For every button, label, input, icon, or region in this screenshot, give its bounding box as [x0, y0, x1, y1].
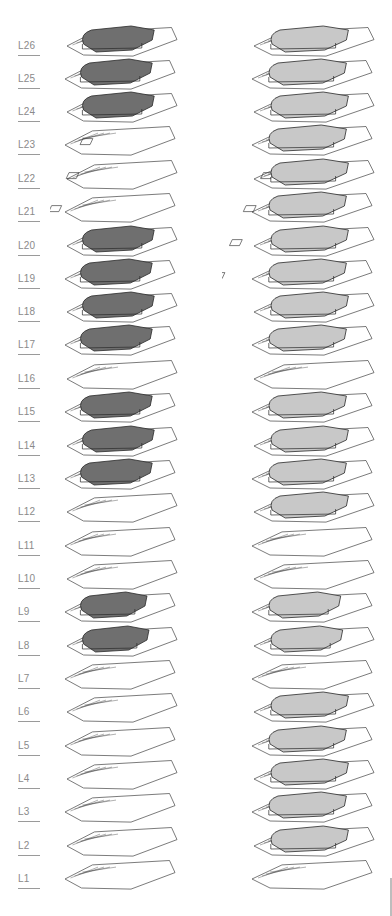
label-underline	[18, 688, 40, 689]
floor-plate	[50, 828, 177, 857]
floor-plate	[222, 759, 374, 789]
label-underline	[18, 121, 40, 122]
label-underline	[18, 588, 40, 589]
floor-stack-right	[222, 0, 392, 916]
floor-plate	[50, 494, 177, 523]
floor-plate	[222, 259, 372, 289]
level-label: L18	[18, 306, 40, 322]
floor-plate	[50, 626, 177, 656]
level-label: L7	[18, 673, 40, 689]
label-underline	[18, 855, 40, 856]
level-label: L22	[18, 173, 40, 189]
level-label: L12	[18, 506, 40, 522]
level-label: L25	[18, 73, 40, 89]
level-label: L5	[18, 740, 40, 756]
floor-plate	[222, 325, 372, 355]
level-label: L3	[18, 806, 40, 822]
floor-plate	[229, 226, 374, 256]
floor-plate	[50, 259, 175, 289]
floor-plate	[50, 728, 175, 757]
level-label: L16	[18, 373, 40, 389]
floor-plate	[50, 426, 177, 456]
floor-plate	[222, 459, 372, 489]
floor-plate	[243, 192, 372, 222]
level-label: L11	[18, 540, 40, 556]
floor-plate	[222, 592, 372, 622]
level-label: L6	[18, 706, 40, 722]
floor-plate	[50, 459, 175, 489]
axonometric-floors-left	[50, 0, 200, 916]
floor-plate	[222, 392, 372, 422]
label-underline	[18, 388, 40, 389]
floor-plate	[65, 59, 175, 89]
level-label: L19	[18, 273, 40, 289]
level-label: L9	[18, 606, 40, 622]
floor-plate	[50, 592, 175, 622]
floor-plate	[222, 561, 374, 590]
label-underline	[18, 521, 40, 522]
floor-plate	[222, 692, 374, 722]
label-underline	[18, 154, 40, 155]
label-underline	[18, 621, 40, 622]
floor-plate	[222, 826, 374, 856]
floor-plate	[252, 59, 372, 89]
floor-plate	[50, 561, 177, 590]
floor-plate	[50, 761, 177, 790]
floor-plate	[50, 528, 175, 557]
floor-plate	[222, 726, 372, 756]
floor-plate	[222, 492, 374, 522]
floor-plate	[222, 426, 374, 456]
floor-plate	[50, 392, 175, 422]
level-label: L1	[18, 873, 40, 889]
floor-plate	[50, 194, 175, 223]
level-label: L23	[18, 139, 40, 155]
floor-plate	[67, 92, 177, 122]
label-underline	[18, 55, 40, 56]
floor-plate	[66, 161, 177, 190]
floor-plate	[50, 226, 177, 256]
floor-plate	[50, 661, 175, 690]
floor-plate	[254, 159, 374, 189]
level-label: L13	[18, 473, 40, 489]
label-underline	[18, 354, 40, 355]
label-underline	[18, 188, 40, 189]
floor-plate	[50, 794, 175, 823]
level-label: L4	[18, 773, 40, 789]
label-underline	[18, 488, 40, 489]
floor-plate	[254, 26, 374, 56]
label-underline	[18, 321, 40, 322]
floor-plate	[50, 861, 175, 890]
level-label: L14	[18, 440, 40, 456]
floor-plate	[222, 361, 374, 390]
label-underline	[18, 421, 40, 422]
floor-plate	[254, 92, 374, 122]
floor-plate	[50, 694, 177, 723]
label-underline	[18, 455, 40, 456]
level-label: L20	[18, 240, 40, 256]
label-underline	[18, 755, 40, 756]
level-label: L24	[18, 106, 40, 122]
label-underline	[18, 821, 40, 822]
level-label: L8	[18, 640, 40, 656]
label-underline	[18, 888, 40, 889]
floor-plate	[67, 26, 177, 56]
floor-plate	[50, 325, 175, 355]
label-underline	[18, 788, 40, 789]
label-underline	[18, 88, 40, 89]
floor-stack-left	[50, 0, 200, 916]
axonometric-floors-right	[222, 0, 392, 916]
level-label: L15	[18, 406, 40, 422]
floor-plate	[222, 292, 374, 322]
floor-plate	[65, 127, 175, 156]
level-label: L21	[18, 206, 40, 222]
floor-plate	[222, 528, 372, 557]
level-label: L17	[18, 339, 40, 355]
level-label: L10	[18, 573, 40, 589]
floor-plate	[50, 292, 177, 322]
label-underline	[18, 288, 40, 289]
label-underline	[18, 721, 40, 722]
floor-plate	[222, 792, 372, 822]
level-label: L26	[18, 40, 40, 56]
label-underline	[18, 221, 40, 222]
label-underline	[18, 255, 40, 256]
